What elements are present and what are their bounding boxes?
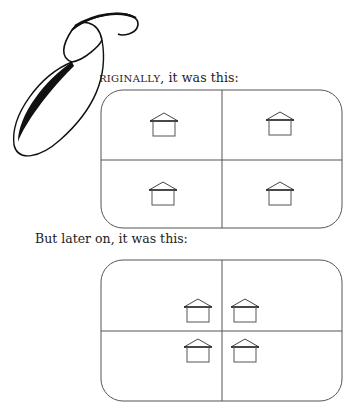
house-icon [184,299,212,322]
house-icon [149,182,177,205]
diagram-later [101,260,342,401]
house-icon [150,113,178,136]
house-icon [231,299,259,322]
house-icon [266,112,294,135]
diagram-original [101,90,342,228]
house-icon [231,339,259,362]
house-icon [266,182,294,205]
house-icon [184,339,212,362]
diagrams [0,0,350,409]
